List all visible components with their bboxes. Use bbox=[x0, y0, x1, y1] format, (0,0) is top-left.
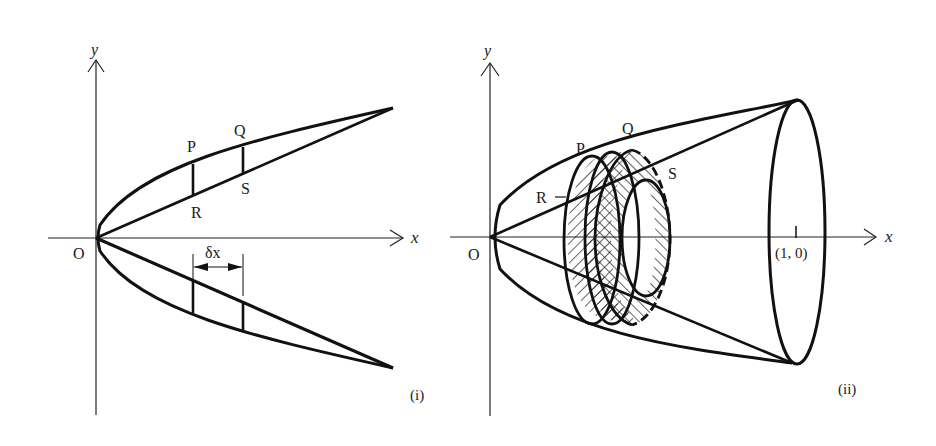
figure-ii-caption: (ii) bbox=[838, 381, 856, 398]
end-ellipse bbox=[769, 100, 825, 364]
point-Q-label: Q bbox=[234, 122, 246, 139]
cone-line-lower bbox=[490, 237, 792, 363]
arrow-right-icon bbox=[228, 263, 242, 271]
figure-ii: y x O P Q R S (1, 0) (ii) bbox=[450, 42, 893, 416]
arrow-left-icon bbox=[194, 263, 208, 271]
point-P-label: P bbox=[187, 138, 196, 155]
point-S-label: S bbox=[668, 165, 677, 182]
diagram-canvas: y x O P Q R S δx (i) bbox=[0, 0, 936, 446]
figure-i: y x O P Q R S δx (i) bbox=[48, 41, 424, 415]
line-lower bbox=[96, 238, 393, 368]
x-axis-label: x bbox=[884, 227, 893, 246]
point-R-label: R bbox=[536, 189, 547, 206]
cone-line-upper bbox=[490, 100, 798, 237]
y-axis-label: y bbox=[89, 41, 99, 59]
y-axis-label: y bbox=[482, 42, 492, 60]
x-axis bbox=[48, 230, 403, 246]
tick-label-1-0: (1, 0) bbox=[775, 245, 808, 262]
x-axis-label: x bbox=[410, 228, 419, 247]
figure-i-caption: (i) bbox=[410, 387, 424, 404]
point-R-label: R bbox=[191, 204, 202, 221]
point-P-label: P bbox=[576, 140, 585, 157]
origin-label: O bbox=[468, 246, 480, 263]
paraboloid-outline bbox=[495, 100, 798, 363]
point-S-label: S bbox=[241, 180, 250, 197]
origin-label: O bbox=[73, 245, 85, 262]
point-Q-label: Q bbox=[622, 120, 634, 137]
delta-x-label: δx bbox=[205, 244, 221, 261]
